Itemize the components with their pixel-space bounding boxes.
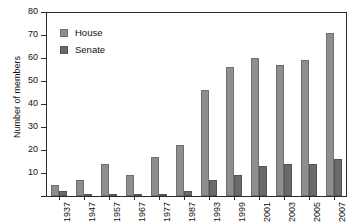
bar-senate-1957 — [109, 194, 117, 196]
bar-house-1977 — [151, 157, 159, 196]
bar-senate-1977 — [159, 194, 167, 196]
y-tick-50 — [41, 81, 46, 82]
bar-senate-2001 — [259, 166, 267, 196]
bar-senate-1993 — [209, 180, 217, 196]
x-tick-1999 — [234, 196, 235, 200]
x-tick-2003 — [284, 196, 285, 200]
y-tick-label-40: 40 — [0, 99, 38, 108]
legend-item-senate[interactable]: Senate — [60, 43, 105, 56]
x-tick-label-2007: 2007 — [338, 202, 347, 222]
bar-senate-2005 — [309, 164, 317, 196]
senate-swatch-icon — [60, 46, 68, 54]
x-tick-label-1993: 1993 — [213, 202, 222, 222]
y-tick-20 — [41, 150, 46, 151]
x-tick-label-2005: 2005 — [313, 202, 322, 222]
y-tick-0 — [41, 196, 46, 197]
legend-label-senate: Senate — [75, 45, 105, 55]
x-tick-label-2001: 2001 — [263, 202, 272, 222]
bar-senate-1947 — [84, 194, 92, 196]
x-axis-line — [46, 196, 347, 197]
x-tick-2007 — [334, 196, 335, 200]
bar-senate-1937 — [59, 191, 67, 196]
legend-item-house[interactable]: House — [60, 26, 105, 39]
x-tick-label-1937: 1937 — [63, 202, 72, 222]
y-axis-labels: 1020304050607080 — [0, 0, 38, 224]
house-swatch-icon — [60, 29, 68, 37]
bar-senate-1967 — [134, 194, 142, 196]
y-tick-label-50: 50 — [0, 76, 38, 85]
chart-figure: Number of members 1020304050607080 House… — [0, 0, 363, 224]
bar-house-1993 — [201, 90, 209, 196]
bar-house-1937 — [51, 185, 59, 197]
y-tick-label-30: 30 — [0, 122, 38, 131]
y-tick-label-20: 20 — [0, 145, 38, 154]
x-tick-label-2003: 2003 — [288, 202, 297, 222]
x-tick-label-1977: 1977 — [163, 202, 172, 222]
x-tick-2001 — [259, 196, 260, 200]
x-tick-1937 — [59, 196, 60, 200]
x-tick-2005 — [309, 196, 310, 200]
bar-house-1957 — [101, 164, 109, 196]
bar-senate-1987 — [184, 191, 192, 196]
y-tick-70 — [41, 35, 46, 36]
x-tick-label-1957: 1957 — [113, 202, 122, 222]
bar-house-2007 — [326, 33, 334, 196]
y-tick-label-10: 10 — [0, 168, 38, 177]
y-tick-label-80: 80 — [0, 7, 38, 16]
bar-house-1947 — [76, 180, 84, 196]
y-tick-label-70: 70 — [0, 30, 38, 39]
x-tick-1977 — [159, 196, 160, 200]
bar-senate-2003 — [284, 164, 292, 196]
bar-house-1967 — [126, 175, 134, 196]
x-tick-label-1967: 1967 — [138, 202, 147, 222]
y-tick-10 — [41, 173, 46, 174]
bar-senate-2007 — [334, 159, 342, 196]
bar-house-2001 — [251, 58, 259, 196]
chart-legend: House Senate — [60, 26, 105, 60]
bar-house-1999 — [226, 67, 234, 196]
x-tick-label-1999: 1999 — [238, 202, 247, 222]
x-tick-1993 — [209, 196, 210, 200]
legend-label-house: House — [75, 28, 102, 38]
y-tick-30 — [41, 127, 46, 128]
y-tick-60 — [41, 58, 46, 59]
bar-house-2003 — [276, 65, 284, 196]
bar-house-1987 — [176, 145, 184, 196]
y-tick-80 — [41, 12, 46, 13]
y-tick-40 — [41, 104, 46, 105]
x-tick-label-1987: 1987 — [188, 202, 197, 222]
x-tick-1957 — [109, 196, 110, 200]
x-tick-1967 — [134, 196, 135, 200]
x-tick-1987 — [184, 196, 185, 200]
bar-senate-1999 — [234, 175, 242, 196]
x-tick-1947 — [84, 196, 85, 200]
bar-house-2005 — [301, 60, 309, 196]
y-tick-label-60: 60 — [0, 53, 38, 62]
x-tick-label-1947: 1947 — [88, 202, 97, 222]
